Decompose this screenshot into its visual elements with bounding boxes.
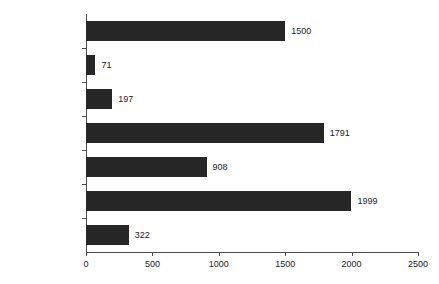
bar-row: NDA197: [86, 82, 418, 116]
x-axis-tick-label: 1500: [275, 258, 295, 270]
x-axis-tick: [352, 252, 353, 256]
y-axis-tick: [82, 150, 86, 151]
bar-row: ANDA1791: [86, 116, 418, 150]
bar-row: IND1500: [86, 14, 418, 48]
bar-row: 补充申请1999: [86, 184, 418, 218]
bar-value-label: 1999: [357, 193, 377, 209]
y-axis-tick: [82, 82, 86, 83]
x-axis-tick-label: 500: [145, 258, 160, 270]
bar: [86, 55, 95, 75]
bar: [86, 89, 112, 109]
y-axis-tick: [82, 218, 86, 219]
bar-row: 一致性评价申请908: [86, 150, 418, 184]
bar-value-label: 1791: [330, 125, 350, 141]
bar: [86, 21, 285, 41]
x-axis-tick-label: 2500: [408, 258, 428, 270]
bar-row: 境外生产药品 再注册申请322: [86, 218, 418, 252]
bar-chart: IND1500验证性临床 试验申请71NDA197ANDA1791一致性评价申请…: [0, 0, 439, 284]
x-axis-tick: [418, 252, 419, 256]
bar-value-label: 908: [213, 159, 228, 175]
bar-value-label: 1500: [291, 23, 311, 39]
plot-area: IND1500验证性临床 试验申请71NDA197ANDA1791一致性评价申请…: [86, 14, 418, 252]
bar: [86, 157, 207, 177]
bar-value-label: 71: [101, 57, 111, 73]
x-axis-line: [86, 252, 419, 253]
y-axis-tick: [82, 184, 86, 185]
bar: [86, 225, 129, 245]
x-axis-tick: [152, 252, 153, 256]
x-axis-tick: [86, 252, 87, 256]
bar: [86, 123, 324, 143]
x-axis-tick: [219, 252, 220, 256]
bar-row: 验证性临床 试验申请71: [86, 48, 418, 82]
x-axis-tick-label: 0: [83, 258, 88, 270]
bar-value-label: 197: [118, 91, 133, 107]
bar: [86, 191, 351, 211]
x-axis-tick: [285, 252, 286, 256]
y-axis-tick: [82, 116, 86, 117]
y-axis-tick: [82, 48, 86, 49]
bar-value-label: 322: [135, 227, 150, 243]
x-axis-tick-label: 2000: [342, 258, 362, 270]
x-axis-tick-label: 1000: [209, 258, 229, 270]
